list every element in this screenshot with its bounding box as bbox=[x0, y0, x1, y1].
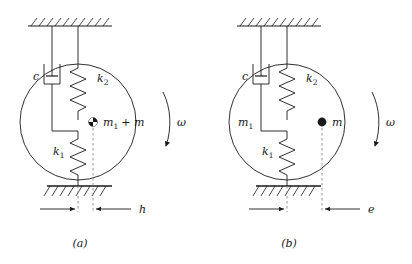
damper-label-a: c bbox=[33, 70, 39, 83]
dimension-label-a: h bbox=[139, 203, 146, 216]
lower-spring-label-b: k1 bbox=[262, 145, 273, 160]
ceiling-support-b bbox=[237, 18, 321, 26]
upper-spring-label-a: k2 bbox=[97, 72, 109, 87]
vibration-system-figure: c k2 k1 m1+ m ω h (a) c k2 k1 m1 m ω e (… bbox=[0, 0, 412, 264]
upper-spring-label-b: k2 bbox=[306, 72, 318, 87]
reference-lines-b bbox=[287, 128, 322, 212]
omega-arrow-b bbox=[372, 92, 379, 146]
mass-label-b: m bbox=[332, 116, 342, 129]
body-label-b: m1 bbox=[238, 116, 253, 131]
mass-label-a: m1+ m bbox=[103, 116, 144, 131]
damper-label-b: c bbox=[242, 70, 248, 83]
mass-marker-a bbox=[89, 118, 97, 126]
mass-marker-b bbox=[318, 118, 327, 127]
figure-canvas: c k2 k1 m1+ m ω h (a) c k2 k1 m1 m ω e (… bbox=[0, 0, 412, 264]
lower-spring-b bbox=[279, 131, 295, 186]
panel-b bbox=[229, 18, 379, 212]
lower-spring-a bbox=[70, 131, 86, 186]
ceiling-support-a bbox=[28, 18, 112, 26]
omega-label-a: ω bbox=[177, 116, 186, 129]
reference-lines-a bbox=[78, 128, 93, 212]
panel-caption-b: (b) bbox=[281, 237, 297, 250]
panel-caption-a: (a) bbox=[72, 237, 87, 250]
omega-arrow-a bbox=[163, 92, 170, 146]
omega-label-b: ω bbox=[386, 116, 395, 129]
panel-a bbox=[20, 18, 170, 212]
upper-spring-a bbox=[70, 62, 86, 120]
upper-spring-b bbox=[279, 62, 295, 120]
dimension-label-b: e bbox=[368, 203, 375, 216]
lower-spring-label-a: k1 bbox=[53, 145, 64, 160]
